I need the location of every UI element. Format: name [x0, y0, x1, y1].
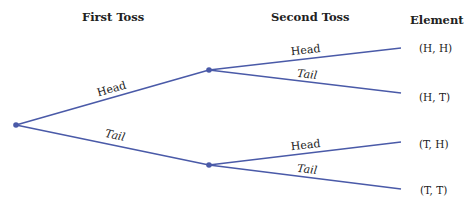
- label-first-head: Head: [96, 79, 128, 100]
- header-second-toss: Second Toss: [271, 10, 350, 24]
- tail-node: [206, 162, 212, 168]
- label-first-tail: Tail: [104, 127, 127, 144]
- label-second-ht: Tail: [296, 67, 318, 82]
- element-tt: (T, T): [420, 184, 447, 196]
- header-element: Element: [410, 13, 464, 27]
- label-second-tt: Tail: [296, 162, 318, 177]
- element-th: (T, H): [419, 138, 449, 150]
- tree-diagram: First Toss Second Toss Element Head Tail…: [0, 0, 474, 205]
- element-ht: (H, T): [419, 91, 450, 103]
- label-second-hh: Head: [290, 42, 321, 58]
- header-first-toss: First Toss: [82, 10, 144, 24]
- element-hh: (H, H): [419, 42, 452, 54]
- root-node: [13, 122, 19, 128]
- edge-first-head: [16, 70, 209, 125]
- label-second-th: Head: [290, 137, 321, 153]
- head-node: [206, 67, 212, 73]
